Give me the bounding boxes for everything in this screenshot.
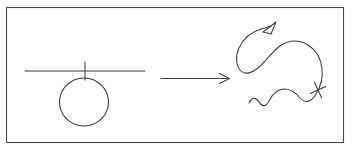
right-symbol-group xyxy=(237,22,326,106)
left-symbol-group xyxy=(25,62,145,126)
diagram-frame-border xyxy=(7,8,344,143)
squiggle-curve-path xyxy=(237,26,323,106)
cross-mark-icon xyxy=(310,82,325,97)
transform-arrow-group xyxy=(161,74,230,84)
hanging-circle xyxy=(60,78,109,126)
diagram-svg xyxy=(0,0,352,153)
diagram-canvas: A circle suspended from a horizontal lin… xyxy=(0,0,352,153)
